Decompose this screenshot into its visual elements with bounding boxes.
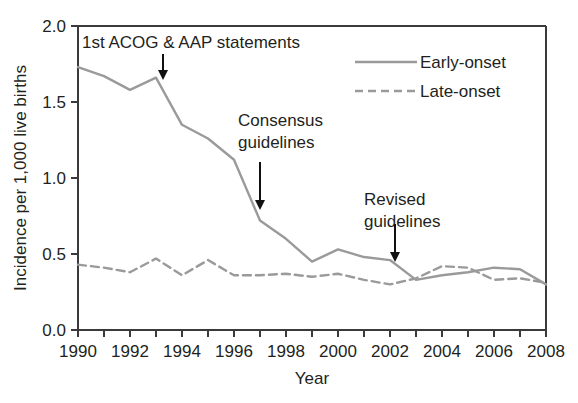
y-tick-label: 2.0 bbox=[42, 17, 66, 36]
x-tick-label: 1996 bbox=[215, 342, 253, 361]
x-tick-label: 2006 bbox=[475, 342, 513, 361]
chart-legend: Early-onsetLate-onset bbox=[355, 53, 506, 101]
annotations-group: 1st ACOG & AAP statementsConsensusguidel… bbox=[82, 33, 441, 262]
y-tick-label: 0.0 bbox=[42, 321, 66, 340]
x-tick-label: 2000 bbox=[319, 342, 357, 361]
x-tick-label: 1994 bbox=[163, 342, 201, 361]
x-tick-label: 1990 bbox=[59, 342, 97, 361]
y-tick-label: 0.5 bbox=[42, 245, 66, 264]
y-tick-label: 1.0 bbox=[42, 169, 66, 188]
incidence-line-chart: 0.00.51.01.52.0 199019921994199619982000… bbox=[0, 0, 578, 403]
x-tick-label: 2002 bbox=[371, 342, 409, 361]
y-tick-label: 1.5 bbox=[42, 93, 66, 112]
y-axis-tick-labels: 0.00.51.01.52.0 bbox=[42, 17, 66, 340]
y-axis-title: Incidence per 1,000 live births bbox=[11, 65, 30, 291]
legend-label-late-onset: Late-onset bbox=[420, 82, 501, 101]
annotation-acog-aap: 1st ACOG & AAP statements bbox=[82, 33, 300, 80]
annotation-label: Revisedguidelines bbox=[364, 190, 441, 231]
annotation-consensus: Consensusguidelines bbox=[238, 111, 323, 210]
x-tick-label: 2008 bbox=[527, 342, 565, 361]
x-tick-label: 2004 bbox=[423, 342, 461, 361]
x-axis-tick-labels: 1990199219941996199820002002200420062008 bbox=[59, 342, 565, 361]
annotation-label: 1st ACOG & AAP statements bbox=[82, 33, 300, 52]
x-tick-label: 1992 bbox=[111, 342, 149, 361]
x-axis-ticks bbox=[78, 330, 546, 337]
annotation-arrow-head bbox=[158, 70, 168, 80]
y-axis-ticks bbox=[71, 26, 78, 330]
annotation-arrow-head bbox=[255, 200, 265, 210]
figure-container: 0.00.51.01.52.0 199019921994199619982000… bbox=[0, 0, 578, 403]
annotation-label: Consensusguidelines bbox=[238, 111, 323, 152]
annotation-revised: Revisedguidelines bbox=[364, 190, 441, 262]
x-tick-label: 1998 bbox=[267, 342, 305, 361]
x-axis-title: Year bbox=[295, 369, 330, 388]
legend-label-early-onset: Early-onset bbox=[420, 53, 506, 72]
